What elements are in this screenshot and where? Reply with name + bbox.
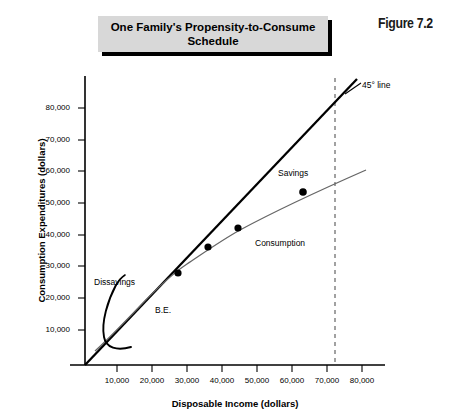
y-tick-label-40000: 40,000 — [28, 230, 70, 239]
y-tick-label-10000: 10,000 — [28, 325, 70, 334]
x-tick-label-70000: 70,000 — [307, 376, 347, 385]
chart-svg — [0, 0, 457, 420]
annotation-break-even: B.E. — [155, 305, 171, 315]
y-tick-label-50000: 50,000 — [28, 198, 70, 207]
annotation-45-degree-line: 45° line — [362, 80, 390, 90]
y-tick-label-80000: 80,000 — [28, 103, 70, 112]
annotation-savings: Savings — [278, 168, 308, 178]
y-tick-label-30000: 30,000 — [28, 261, 70, 270]
data-point-30000 — [174, 269, 181, 276]
x-tick-label-40000: 40,000 — [202, 376, 242, 385]
x-tick-label-20000: 20,000 — [132, 376, 172, 385]
x-tick-label-80000: 80,000 — [342, 376, 382, 385]
annotation-dissavings: Dissavings — [94, 277, 135, 287]
x-tick-label-60000: 60,000 — [272, 376, 312, 385]
x-tick-label-50000: 50,000 — [237, 376, 277, 385]
y-tick-label-70000: 70,000 — [28, 135, 70, 144]
y-tick-label-60000: 60,000 — [28, 166, 70, 175]
consumption-curve — [95, 170, 366, 351]
x-axis-title: Disposable Income (dollars) — [85, 398, 385, 409]
x-tick-label-10000: 10,000 — [97, 376, 137, 385]
y-axis-title: Consumption Expenditures (dollars) — [36, 111, 47, 331]
data-point-50000 — [234, 224, 241, 231]
x-axis-ticks — [117, 365, 362, 372]
forty-five-degree-line — [85, 79, 357, 365]
x-tick-label-30000: 30,000 — [167, 376, 207, 385]
chart-plot-area: 80,000 70,000 60,000 50,000 40,000 30,00… — [0, 0, 457, 420]
y-tick-label-20000: 20,000 — [28, 293, 70, 302]
annotation-consumption: Consumption — [255, 238, 305, 248]
data-point-40000 — [204, 243, 211, 250]
y-axis-ticks — [78, 108, 85, 330]
data-point-70000 — [299, 188, 307, 196]
